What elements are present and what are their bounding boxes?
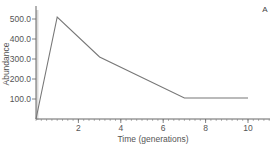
x-axis-title: Time (generations) bbox=[117, 134, 188, 144]
y-tick-label: 300.0 bbox=[10, 54, 32, 64]
x-tick-label: 2 bbox=[76, 123, 81, 133]
panel-label: A bbox=[262, 5, 268, 14]
y-axis-title: Abundance bbox=[1, 42, 11, 85]
x-tick-label: 6 bbox=[161, 123, 166, 133]
y-tick-label: 500.0 bbox=[10, 14, 32, 24]
x-tick-label: 10 bbox=[243, 123, 253, 133]
x-tick-label: 8 bbox=[203, 123, 208, 133]
y-axis-ticks: 100.0200.0300.0400.0500.0 bbox=[10, 14, 36, 104]
y-tick-label: 200.0 bbox=[10, 74, 32, 84]
abundance-series-line bbox=[36, 17, 248, 119]
y-tick-label: 100.0 bbox=[10, 94, 32, 104]
x-tick-label: 4 bbox=[118, 123, 123, 133]
y-tick-label: 400.0 bbox=[10, 34, 32, 44]
x-axis-ticks: 246810 bbox=[76, 119, 253, 133]
abundance-line-chart: 100.0200.0300.0400.0500.0 246810 Abundan… bbox=[0, 0, 278, 156]
